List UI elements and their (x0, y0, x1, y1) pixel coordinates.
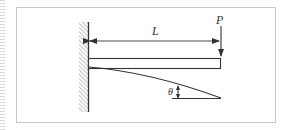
fixed-wall (79, 22, 89, 112)
dimension-arrow-left-icon (89, 38, 97, 44)
beam (89, 59, 221, 69)
length-label: L (151, 24, 159, 38)
load-arrow: P (215, 13, 224, 56)
cantilever-diagram: L P θ (0, 0, 300, 130)
angle-indicator: θ (168, 86, 178, 98)
angle-label: θ (168, 86, 173, 97)
length-dimension: L (89, 24, 219, 44)
deflected-curve (89, 67, 222, 98)
wall-hatch (79, 22, 88, 112)
load-label: P (215, 13, 224, 27)
